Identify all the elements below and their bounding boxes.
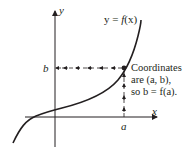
function-graph-figure: y x y = f(x) b a Coordinates are (a, b),…	[0, 0, 189, 153]
curve-label: y = f(x)	[104, 14, 137, 25]
point-a-b	[122, 66, 127, 71]
annotation-line-2: are (a, b),	[131, 74, 182, 86]
x-axis-label: x	[152, 106, 157, 117]
annotation-line-3: so b = f(a).	[131, 86, 182, 98]
b-label: b	[43, 63, 49, 74]
curve-label-arg: (x)	[124, 13, 137, 25]
y-axis-label: y	[59, 5, 64, 16]
coordinates-annotation: Coordinates are (a, b), so b = f(a).	[131, 62, 182, 98]
a-label: a	[121, 121, 127, 132]
curve-label-prefix: y =	[104, 13, 121, 25]
annotation-line-1: Coordinates	[131, 62, 182, 74]
